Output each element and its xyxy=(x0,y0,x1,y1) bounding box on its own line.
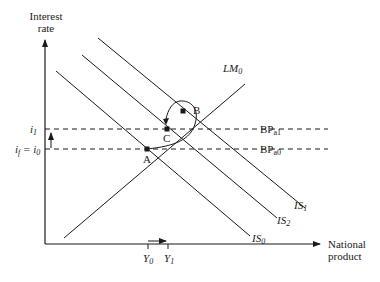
is0-curve xyxy=(56,71,250,236)
point-a-marker xyxy=(145,147,150,152)
x-axis-label-line2: product xyxy=(328,250,366,262)
point-b-label: B xyxy=(193,104,200,116)
y-axis-label-line2: rate xyxy=(25,22,67,34)
point-a-label: A xyxy=(143,153,151,165)
lm0-curve xyxy=(64,102,224,238)
y-axis-label-line1: Interest xyxy=(25,10,67,22)
lm0-curve-upper xyxy=(224,84,245,102)
lm0-label: LM0 xyxy=(223,62,242,74)
if-equals-i0-label: if = i0 xyxy=(15,143,40,155)
x-axis-label-line1: National xyxy=(328,238,366,250)
point-c-label: C xyxy=(163,132,170,144)
adjustment-path xyxy=(147,101,196,149)
is0-label: IS0 xyxy=(252,232,265,244)
y1-label: Y1 xyxy=(164,252,174,264)
point-b-marker xyxy=(181,109,186,114)
is2-curve xyxy=(82,55,277,218)
diagram-canvas xyxy=(0,0,380,282)
point-c-marker xyxy=(165,127,170,132)
i1-label: i1 xyxy=(30,123,37,135)
y-axis-label: Interest rate xyxy=(25,10,67,34)
is1-label: IS1 xyxy=(294,199,307,211)
bpa0-label: BPa0 xyxy=(260,143,281,155)
y0-label: Y0 xyxy=(143,252,153,264)
x-axis-label: National product xyxy=(328,238,366,262)
is2-label: IS2 xyxy=(277,214,290,226)
bpa1-label: BPa1 xyxy=(260,123,281,135)
